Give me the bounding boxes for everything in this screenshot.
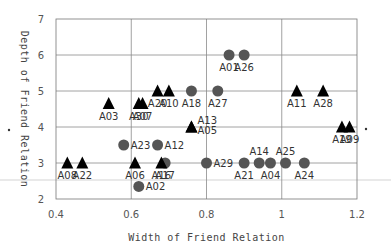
point-A28 xyxy=(317,85,329,97)
point-label-A11: A11 xyxy=(287,98,307,109)
point-A05 xyxy=(185,121,197,133)
point-label-A25: A25 xyxy=(276,146,296,157)
point-A11 xyxy=(291,85,303,97)
point-A27 xyxy=(212,86,223,97)
point-A10 xyxy=(163,85,175,97)
point-label-A26: A26 xyxy=(234,62,254,73)
point-label-A12: A12 xyxy=(165,140,185,151)
x-tick-label: 0.4 xyxy=(48,209,64,220)
point-label-A04: A04 xyxy=(261,170,281,181)
point-label-A02: A02 xyxy=(146,181,166,192)
x-axis-ticks: 0.40.60.811.2 xyxy=(48,209,365,220)
point-label-A09: A09 xyxy=(340,134,360,145)
point-label-A27: A27 xyxy=(208,98,228,109)
point-A08 xyxy=(61,157,73,169)
x-axis-label: Width of Friend Relation xyxy=(128,232,285,243)
point-A29 xyxy=(201,158,212,169)
point-A20 xyxy=(152,85,164,97)
y-tick-label: 5 xyxy=(38,86,44,97)
point-A01 xyxy=(224,50,235,61)
point-A02 xyxy=(133,181,144,192)
y-tick-label: 4 xyxy=(38,122,44,133)
point-label-A22: A22 xyxy=(73,170,93,181)
point-label-A05: A05 xyxy=(197,125,217,136)
point-A24 xyxy=(299,158,310,169)
x-tick-label: 1.2 xyxy=(349,209,365,220)
point-A12 xyxy=(152,140,163,151)
point-A21 xyxy=(239,158,250,169)
point-A04 xyxy=(265,158,276,169)
x-tick-label: 1 xyxy=(279,209,285,220)
stray-dot-right xyxy=(365,128,367,130)
y-axis-label: Depth of Friend Relation xyxy=(19,31,30,188)
x-tick-label: 0.6 xyxy=(123,209,139,220)
y-tick-label: 6 xyxy=(38,50,44,61)
point-label-A29: A29 xyxy=(214,158,234,169)
point-label-A18: A18 xyxy=(182,98,202,109)
point-label-A23: A23 xyxy=(131,140,151,151)
point-A26 xyxy=(239,50,250,61)
scatter-chart: 0.40.60.811.2 234567 Width of Friend Rel… xyxy=(0,0,391,249)
x-tick-label: 0.8 xyxy=(199,209,215,220)
point-A09 xyxy=(343,121,355,133)
point-label-A10: A10 xyxy=(159,98,179,109)
point-A25 xyxy=(280,158,291,169)
point-A23 xyxy=(118,140,129,151)
point-A22 xyxy=(76,157,88,169)
point-label-A16: A16 xyxy=(152,170,172,181)
point-label-A03: A03 xyxy=(99,111,119,122)
y-tick-label: 7 xyxy=(38,14,44,25)
point-A14 xyxy=(254,158,265,169)
y-tick-label: 3 xyxy=(38,158,44,169)
y-axis-ticks: 234567 xyxy=(38,14,44,205)
stray-dot-left xyxy=(8,129,10,131)
point-A03 xyxy=(103,97,115,109)
point-A18 xyxy=(186,86,197,97)
point-label-A07: A07 xyxy=(133,111,153,122)
y-tick-label: 2 xyxy=(38,194,44,205)
point-label-A24: A24 xyxy=(295,170,315,181)
point-label-A21: A21 xyxy=(234,170,254,181)
point-A06 xyxy=(129,157,141,169)
point-label-A28: A28 xyxy=(313,98,333,109)
point-label-A14: A14 xyxy=(249,146,269,157)
point-label-A06: A06 xyxy=(125,170,145,181)
